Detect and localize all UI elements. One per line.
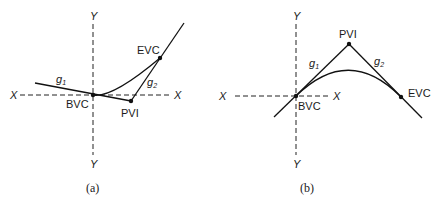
g2-label-a: g2 — [147, 76, 157, 89]
x-label-right-a: X — [173, 89, 182, 101]
g1-label-a: g1 — [56, 73, 66, 86]
y-label-bottom-b: Y — [293, 158, 301, 170]
bvc-point-b — [294, 94, 298, 98]
y-label-bottom-a: Y — [90, 158, 98, 170]
caption-a: (a) — [86, 181, 99, 195]
bvc-label-b: BVC — [298, 100, 321, 112]
bvc-label-a: BVC — [66, 98, 89, 110]
diagram-a: Y Y X X BVC PVI EVC g1 g2 (a) — [9, 10, 184, 195]
x-label-right-b: X — [332, 90, 341, 102]
x-label-left-b: X — [218, 90, 227, 102]
y-label-top-b: Y — [293, 10, 301, 22]
x-label-left-a: X — [9, 89, 18, 101]
evc-label-a: EVC — [137, 44, 160, 56]
pvi-label-b: PVI — [339, 28, 357, 40]
evc-label-b: EVC — [408, 87, 431, 99]
g1-label-b: g1 — [309, 57, 319, 70]
bvc-point-a — [91, 93, 95, 97]
vertical-curve-b — [296, 70, 401, 97]
evc-point-b — [399, 95, 403, 99]
pvi-label-a: PVI — [121, 107, 139, 119]
pvi-point-a — [129, 99, 133, 103]
caption-b: (b) — [300, 181, 314, 195]
y-label-top-a: Y — [90, 10, 98, 22]
grade-line-g2-b — [349, 44, 422, 118]
vertical-curves-figure: Y Y X X BVC PVI EVC g1 g2 (a) Y Y X X BV… — [0, 0, 435, 205]
pvi-point-b — [347, 42, 351, 46]
diagram-b: Y Y X X BVC PVI EVC g1 g2 (b) — [218, 10, 431, 195]
evc-point-a — [158, 56, 162, 60]
g2-label-b: g2 — [374, 55, 384, 68]
